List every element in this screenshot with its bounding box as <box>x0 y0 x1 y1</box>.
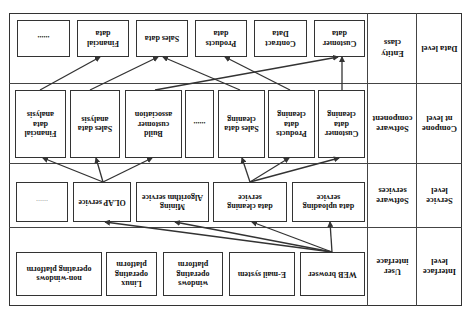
class-label-entity-class: Entity class <box>368 13 417 84</box>
node-customer-data-cleaning: Customer data cleaning <box>318 90 365 158</box>
node-build-customer-association: Build customer association <box>125 90 182 158</box>
node-web-browser: WEB browser <box>300 252 365 296</box>
node-email-system: E-mail system <box>229 252 295 296</box>
architecture-diagram: Interface level User interface Service l… <box>0 0 470 319</box>
node-data-uploading-service: data uploading service <box>292 182 365 222</box>
node-linux-platform: Linux operating platform <box>106 252 157 296</box>
class-label-software-services: Software services <box>368 164 417 228</box>
node-component-more: ...... <box>185 90 214 158</box>
level-label-service: Service level <box>417 164 462 228</box>
node-sales-data: Sales data <box>136 20 188 57</box>
class-label-software-component: Software component <box>368 84 417 164</box>
node-sales-data-cleaning: Sales data cleaning <box>218 90 265 158</box>
node-data-cleaning-service: data cleaning service <box>213 182 287 222</box>
node-service-more: ...... <box>16 182 68 222</box>
node-products-data: Products data <box>195 20 247 57</box>
level-label-interface: Interface level <box>417 228 462 306</box>
node-products-data-cleaning: Products data cleaning <box>268 90 315 158</box>
class-label-user-interface: User interface <box>368 228 417 306</box>
node-olap-service: OLAP service <box>73 182 131 222</box>
level-label-component: Compone nt level <box>417 84 462 164</box>
node-financial-data: Financial data <box>77 20 129 57</box>
node-customer-data: Customer data <box>314 20 365 57</box>
node-financial-data-analysis: Financial data analysis <box>15 90 66 158</box>
node-contract-data: Contract Data <box>254 20 307 57</box>
node-sales-data-analysis: Sales data analysis <box>70 90 120 158</box>
node-windows-platform: windows operating platform <box>163 252 223 296</box>
node-data-more: ...... <box>17 20 70 57</box>
node-mining-algorithm-service: Mining Algorithm service <box>136 182 209 222</box>
node-non-windows-platform: non-windows operating platform <box>16 252 102 296</box>
level-label-data: Data level <box>417 13 462 84</box>
